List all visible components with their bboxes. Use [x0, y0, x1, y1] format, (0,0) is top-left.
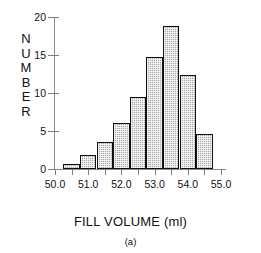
- histogram-bar: [196, 134, 213, 169]
- x-axis-tick: [55, 169, 56, 175]
- x-axis-tick: [72, 169, 73, 175]
- histogram-bar: [130, 97, 147, 169]
- histogram-bar: [80, 155, 97, 169]
- y-axis-tick-inner: [54, 17, 59, 18]
- x-axis-tick: [204, 169, 205, 175]
- histogram-bar: [146, 57, 163, 169]
- x-axis-tick: [105, 169, 106, 175]
- x-axis-tick-label: 52.0: [111, 179, 131, 190]
- y-axis-title-letter: R: [21, 105, 30, 120]
- y-axis-tick-inner: [54, 131, 59, 132]
- x-axis-tick-label: 53.0: [144, 179, 164, 190]
- x-axis-tick: [171, 169, 172, 175]
- histogram-figure: NUMBER 0510152050.051.052.053.054.055.0 …: [0, 0, 261, 253]
- y-axis-title-letter: U: [21, 47, 30, 62]
- y-axis-tick-label: 15: [34, 50, 46, 61]
- y-axis-title-letter: E: [22, 90, 31, 105]
- histogram-bar: [163, 26, 180, 169]
- y-axis-title: NUMBER: [18, 32, 34, 119]
- y-axis-title-letter: M: [21, 61, 32, 76]
- y-axis-tick-label: 5: [40, 126, 46, 137]
- x-axis-tick: [121, 169, 122, 175]
- x-axis-line: [54, 169, 226, 170]
- y-axis-tick-inner: [54, 55, 59, 56]
- histogram-bar: [63, 164, 80, 169]
- x-axis-title: FILL VOLUME (ml): [0, 214, 261, 229]
- histogram-bar: [180, 75, 197, 169]
- x-axis-tick-label: 50.0: [45, 179, 65, 190]
- x-axis-tick: [155, 169, 156, 175]
- x-axis-tick: [188, 169, 189, 175]
- histogram-bar: [113, 123, 130, 169]
- x-axis-tick: [138, 169, 139, 175]
- y-axis-tick-label: 0: [40, 164, 46, 175]
- y-axis-title-letter: N: [21, 32, 30, 47]
- y-axis-tick-inner: [54, 93, 59, 94]
- figure-caption: (a): [0, 236, 261, 247]
- histogram-bar: [97, 142, 114, 169]
- y-axis-tick-label: 10: [34, 88, 46, 99]
- x-axis-tick-label: 54.0: [178, 179, 198, 190]
- plot-area: 0510152050.051.052.053.054.055.0: [55, 17, 221, 169]
- y-axis-tick-label: 20: [34, 12, 46, 23]
- x-axis-tick: [88, 169, 89, 175]
- x-axis-tick-label: 51.0: [78, 179, 98, 190]
- x-axis-tick-label: 55.0: [211, 179, 231, 190]
- x-axis-tick: [221, 169, 222, 175]
- y-axis-title-letter: B: [22, 76, 31, 91]
